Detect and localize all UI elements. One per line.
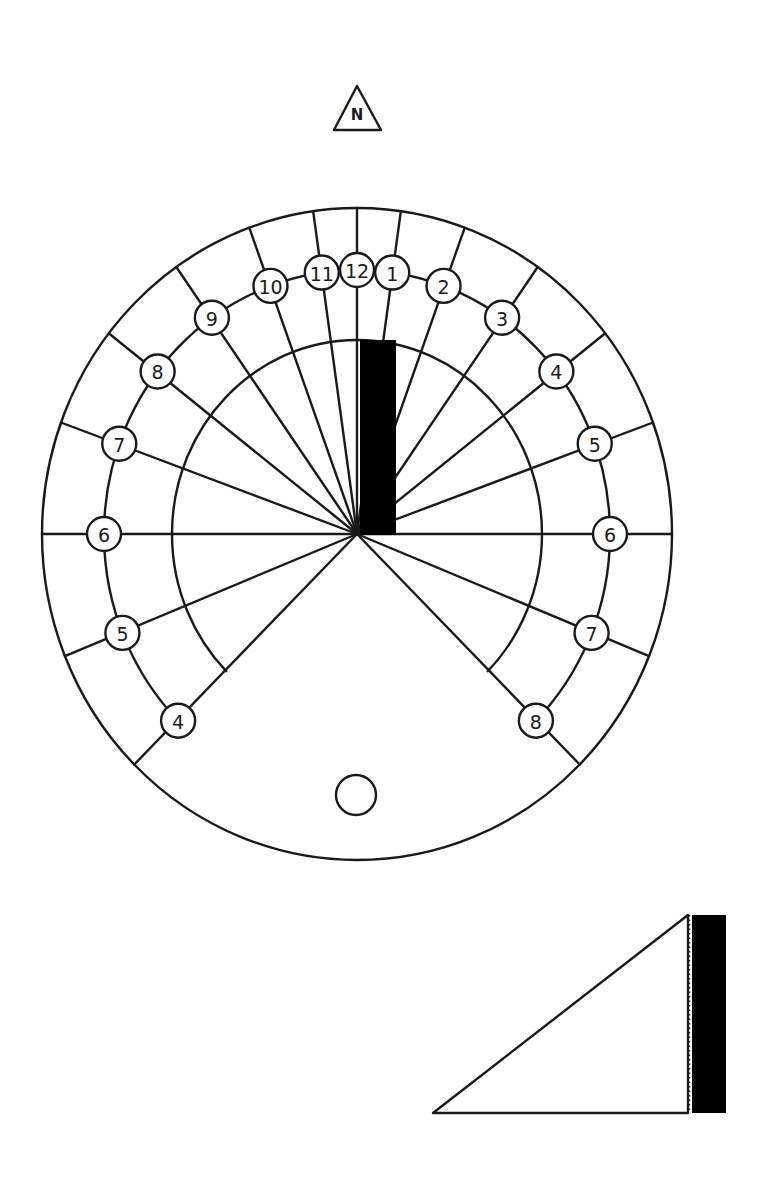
hour-label-text: 8 [530,711,542,733]
hour-label: 7 [575,616,609,650]
hour-label: 6 [593,517,627,551]
hour-label-text: 2 [437,276,449,298]
gnomon-triangle [433,915,688,1113]
hour-lines [42,208,672,765]
hour-label-text: 4 [550,361,562,383]
hour-label-text: 4 [172,711,184,733]
hour-label: 12 [340,253,374,287]
hour-label-text: 11 [310,263,334,285]
hour-label-text: 7 [113,434,125,456]
sundial-diagram: N 45678910111212345678 [0,0,765,1179]
hour-label-text: 10 [258,276,282,298]
hour-label-text: 1 [386,263,398,285]
hour-label: 8 [519,704,553,738]
hour-label: 6 [87,517,121,551]
hour-label: 5 [578,427,612,461]
hour-label: 4 [161,704,195,738]
mounting-hole [336,775,376,815]
hour-label: 2 [427,269,461,303]
hour-label: 5 [105,616,139,650]
hour-label-text: 6 [604,524,616,546]
hour-label-text: 9 [206,308,218,330]
hour-label: 3 [485,301,519,335]
hour-label-text: 3 [496,308,508,330]
gnomon-side-view [433,915,726,1113]
hour-label-text: 5 [589,434,601,456]
hour-label-text: 6 [98,524,110,546]
gnomon-fold-strip [692,915,726,1113]
sundial-face: 45678910111212345678 [42,208,672,860]
north-label: N [351,106,364,124]
hour-label: 9 [195,301,229,335]
hour-label-text: 12 [345,260,369,282]
hour-label: 1 [375,256,409,290]
hour-label-text: 8 [152,361,164,383]
hour-label-text: 7 [586,623,598,645]
hour-label: 11 [305,256,339,290]
hour-label: 10 [253,269,287,303]
north-marker: N [334,86,381,130]
gnomon-bar [360,340,396,535]
hour-label: 8 [141,354,175,388]
hour-label-text: 5 [116,623,128,645]
hour-label: 7 [102,427,136,461]
hour-label: 4 [539,354,573,388]
